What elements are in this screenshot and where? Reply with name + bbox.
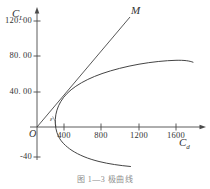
angle-label-epsilon: ε <box>50 116 53 123</box>
x-tick-label-1200: 1200 <box>128 131 150 140</box>
x-axis <box>30 125 206 129</box>
tangent-label-m: M <box>131 5 140 16</box>
y-tick-label-40: 40. 00 <box>0 87 32 96</box>
x-tick-label-400: 400 <box>54 131 74 140</box>
origin-label: O <box>29 129 36 139</box>
y-tick-label-minus-40: -40 <box>0 152 32 161</box>
polar-curve-figure: CL Cd 120. 00 80. 00 40. 00 -40 400 800 … <box>0 0 210 189</box>
tangent-line <box>37 17 130 127</box>
polar-curve <box>55 60 193 166</box>
y-tick-label-120: 120. 00 <box>0 16 32 25</box>
y-tick-label-80: 80. 00 <box>0 51 32 60</box>
figure-caption: 图 1—3 极曲线 <box>0 176 210 185</box>
x-tick-label-800: 800 <box>91 131 111 140</box>
x-tick-label-1600: 1600 <box>165 131 187 140</box>
